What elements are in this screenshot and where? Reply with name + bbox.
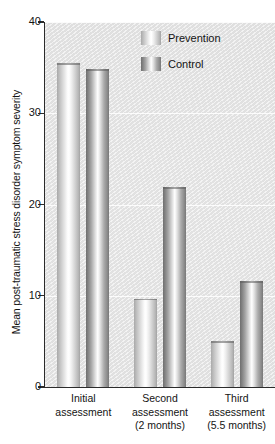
- gridline-40: [45, 22, 275, 23]
- category-label-line: assessment: [122, 406, 199, 420]
- category-label-line: Second: [122, 392, 199, 406]
- y-tick-label-0: 0: [13, 381, 41, 392]
- y-tick-label-20: 20: [13, 199, 41, 210]
- bar-top-edge: [163, 187, 186, 189]
- y-tick-label-40: 40: [13, 16, 41, 27]
- legend-item-prevention[interactable]: Prevention: [141, 28, 263, 48]
- category-label-line: (2 months): [122, 419, 199, 433]
- y-tick-label-30: 30: [13, 107, 41, 118]
- legend-item-control[interactable]: Control: [141, 54, 263, 74]
- category-label-line: assessment: [198, 406, 275, 420]
- bar-prevention-group-3: [211, 341, 234, 387]
- y-axis-title: Mean post-traumatic stress disorder symp…: [8, 47, 24, 377]
- category-label-line: Third: [198, 392, 275, 406]
- bar-prevention-group-2: [134, 299, 157, 388]
- x-category-label-3: Thirdassessment(5.5 months): [198, 392, 275, 433]
- bar-control-group-3: [240, 281, 263, 387]
- category-label-line: (5.5 months): [198, 419, 275, 433]
- y-tick-label-10: 10: [13, 290, 41, 301]
- x-axis-line: [38, 387, 275, 388]
- chart-legend: PreventionControl: [141, 28, 263, 80]
- bar-top-edge: [86, 69, 109, 71]
- chart-figure: Mean post-traumatic stress disorder symp…: [0, 0, 275, 444]
- x-category-label-2: Secondassessment(2 months): [122, 392, 199, 433]
- legend-label: Control: [168, 58, 203, 70]
- bar-control-group-2: [163, 187, 186, 387]
- legend-swatch-control-icon: [141, 57, 161, 71]
- bar-prevention-group-1: [57, 63, 80, 387]
- category-label-line: Initial: [45, 392, 122, 406]
- x-category-label-1: Initialassessment: [45, 392, 122, 419]
- bar-control-group-1: [86, 69, 109, 387]
- legend-label: Prevention: [168, 32, 221, 44]
- bar-top-edge: [57, 63, 80, 65]
- category-label-line: assessment: [45, 406, 122, 420]
- bar-top-edge: [211, 341, 234, 343]
- bar-top-edge: [134, 299, 157, 301]
- y-axis-line: [44, 22, 45, 388]
- bar-top-edge: [240, 281, 263, 283]
- legend-swatch-prevention-icon: [141, 31, 161, 45]
